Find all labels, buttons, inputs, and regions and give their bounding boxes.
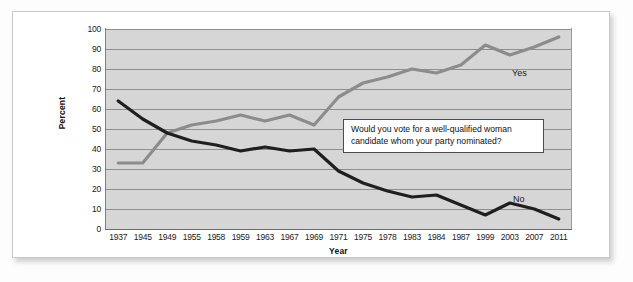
series-label-no: No (513, 194, 525, 204)
gridline (106, 109, 571, 110)
gridline (106, 49, 571, 50)
gridline (106, 189, 571, 190)
x-tick-label: 1999 (476, 232, 494, 242)
x-tick-label: 2011 (550, 232, 567, 242)
x-tick-label: 1969 (305, 232, 323, 242)
y-axis-line (105, 28, 106, 230)
x-tick-label: 1949 (158, 232, 176, 242)
y-tick-label: 10 (75, 204, 101, 214)
x-tick-label: 1987 (452, 232, 470, 242)
x-axis-title: Year (106, 246, 571, 256)
line-chart: 1009080706050403020100 Percent Yes No Wo… (13, 12, 611, 257)
series-label-yes: Yes (512, 68, 527, 78)
y-tick-label: 30 (75, 164, 101, 174)
y-axis-title: Percent (57, 97, 67, 130)
x-tick-label: 1967 (281, 232, 299, 242)
x-tick-label: 1937 (109, 232, 127, 242)
screenshot-root: 1009080706050403020100 Percent Yes No Wo… (0, 0, 633, 282)
gridline (106, 169, 571, 170)
y-tick-label: 40 (75, 144, 101, 154)
gridline (106, 89, 571, 90)
y-tick-label: 70 (75, 84, 101, 94)
x-tick-label: 1971 (330, 232, 348, 242)
x-tick-label: 1945 (134, 232, 152, 242)
y-tick-label: 50 (75, 124, 101, 134)
x-tick-label: 1975 (354, 232, 372, 242)
x-tick-label: 1958 (207, 232, 225, 242)
y-tick-label: 100 (75, 24, 101, 34)
x-tick-label: 1955 (183, 232, 201, 242)
gridline (106, 29, 571, 30)
annotation-line-2: candidate whom your party nominated? (351, 136, 537, 148)
y-tick-label: 0 (75, 224, 101, 234)
x-tick-label: 1963 (256, 232, 274, 242)
x-tick-label: 1983 (403, 232, 421, 242)
question-annotation: Would you vote for a well-qualified woma… (343, 119, 544, 153)
y-tick-label: 90 (75, 44, 101, 54)
x-tick-label: 1984 (427, 232, 445, 242)
y-tick-label: 20 (75, 184, 101, 194)
gridline (106, 209, 571, 210)
x-tick-label: 1978 (378, 232, 396, 242)
chart-card: 1009080706050403020100 Percent Yes No Wo… (12, 11, 610, 258)
y-axis-ticks: 1009080706050403020100 (71, 29, 101, 229)
annotation-line-1: Would you vote for a well-qualified woma… (351, 124, 537, 136)
x-tick-label: 2007 (525, 232, 543, 242)
plot-right-edge (571, 28, 572, 230)
y-tick-label: 60 (75, 104, 101, 114)
x-tick-label: 1959 (232, 232, 250, 242)
x-tick-label: 2003 (501, 232, 519, 242)
gridline (106, 69, 571, 70)
x-axis-line (105, 229, 572, 230)
y-tick-label: 80 (75, 64, 101, 74)
